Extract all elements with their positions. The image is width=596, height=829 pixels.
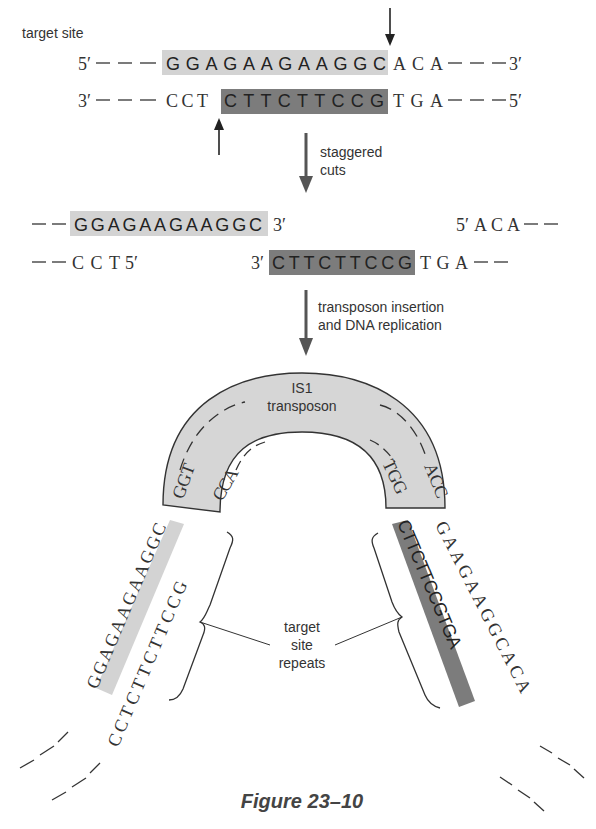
left-repeat-brace	[169, 532, 233, 700]
svg-text:GGAGAAGAAGGC: GGAGAAGAAGGC	[74, 215, 262, 235]
step2-label-line1: transposon insertion	[318, 299, 444, 315]
svg-text:3′: 3′	[78, 91, 91, 111]
right-leader-line	[335, 617, 402, 645]
figure-caption: Figure 23–10	[241, 790, 363, 812]
cut-arrow-bottom	[214, 118, 224, 155]
left-leader-line	[200, 622, 270, 645]
repeats-label-line1: target	[284, 619, 320, 635]
step2-label-line2: and DNA replication	[318, 317, 442, 333]
repeats-label-line2: site	[291, 637, 313, 653]
target-site-label: target site	[22, 25, 84, 41]
cut-left-fragment: GGAGAAGAAGGC 3′ CCT 5′	[32, 211, 286, 273]
bottom-strand: 3′ CCT CTTCTTCCG TGA 5′	[78, 89, 522, 114]
svg-text:CTTCTTCCG: CTTCTTCCG	[272, 253, 412, 273]
svg-text:ACA: ACA	[393, 54, 443, 74]
svg-text:CCT: CCT	[166, 91, 208, 111]
svg-text:ACA: ACA	[474, 215, 520, 235]
svg-text:5′: 5′	[78, 54, 91, 74]
is1-label: IS1	[291, 380, 312, 396]
step1-label-line1: staggered	[320, 144, 382, 160]
step-arrow-2	[299, 290, 313, 356]
svg-text:3′: 3′	[273, 215, 286, 235]
step1-label-line2: cuts	[320, 162, 346, 178]
transposon-label: transposon	[267, 398, 336, 414]
transposition-diagram: target site 5′ GGAGAAGAAGGC ACA 3′ 3′ CC…	[0, 0, 596, 829]
svg-text:CCT: CCT	[72, 253, 120, 273]
right-flank: CTTCTTCCGTGA GAAGAAGGCACA	[392, 517, 584, 811]
step-arrow-1	[299, 133, 313, 193]
is1-transposon: IS1 transposon GGT CCA TGG ACC	[163, 373, 452, 512]
svg-text:5′: 5′	[456, 215, 469, 235]
svg-text:3′: 3′	[251, 253, 264, 273]
svg-text:TGA: TGA	[420, 253, 468, 273]
svg-text:3′: 3′	[509, 54, 522, 74]
top-strand: 5′ GGAGAAGAAGGC ACA 3′	[78, 50, 522, 75]
svg-text:CTTCTTCCG: CTTCTTCCG	[224, 91, 384, 111]
cut-right-fragment: 5′ ACA 3′ CTTCTTCCG TGA	[251, 215, 558, 275]
cut-arrow-top	[385, 8, 395, 46]
svg-text:5′: 5′	[509, 91, 522, 111]
repeats-label-line3: repeats	[279, 655, 326, 671]
svg-text:TGA: TGA	[393, 91, 443, 111]
svg-text:5′: 5′	[125, 253, 138, 273]
left-flank: GGAGAAGAAGGC CCTCTTCTTCCG	[20, 520, 191, 800]
